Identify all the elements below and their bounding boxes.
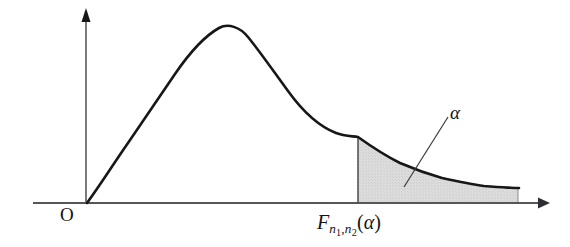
figure-canvas <box>0 0 570 247</box>
alpha-shaded-region <box>358 137 518 203</box>
subscript-first-var: n <box>329 221 336 236</box>
critical-value-subscript: n1,n2 <box>329 221 357 236</box>
alpha-shade-fill <box>358 137 518 203</box>
critical-value-label: Fn1,n2(α) <box>317 212 381 238</box>
argument-close-paren: ) <box>374 211 381 233</box>
y-axis <box>82 8 91 203</box>
alpha-label: α <box>450 103 460 122</box>
argument-open-paren: ( <box>357 211 364 233</box>
origin-label: O <box>60 205 74 224</box>
subscript-second-var: n <box>345 221 352 236</box>
y-axis-arrowhead <box>82 8 91 22</box>
f-distribution-figure: O α Fn1,n2(α) <box>0 0 570 247</box>
argument-alpha: α <box>364 211 375 233</box>
critical-value-symbol: F <box>317 211 329 233</box>
x-axis-arrowhead <box>538 198 550 209</box>
